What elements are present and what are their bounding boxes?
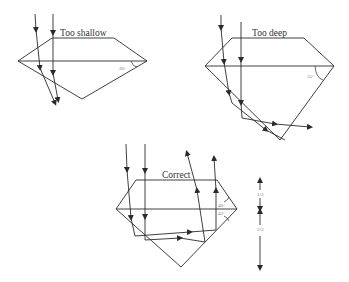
deep-outline (205, 38, 334, 140)
correct-diamond: Correct 40° 42° (116, 144, 237, 267)
proportion-markers: 1/3 2/3 (257, 180, 264, 268)
correct-angle-label-lower: 42° (218, 211, 225, 216)
shallow-title: Too shallow (60, 28, 107, 38)
shallow-ray-1-in (35, 14, 36, 30)
shallow-outline (18, 38, 147, 99)
correct-ray-1-out (214, 158, 216, 190)
correct-outline (116, 180, 237, 267)
too-deep-diamond: Too deep 55° (205, 15, 334, 140)
two-thirds-label: 2/3 (257, 227, 264, 232)
one-third-label: 1/3 (257, 192, 264, 197)
correct-title: Correct (162, 170, 191, 180)
deep-title: Too deep (252, 28, 287, 38)
correct-ray-1-in (126, 144, 127, 170)
shallow-angle-arc (131, 61, 137, 67)
correct-angle-label-upper: 40° (218, 203, 225, 208)
too-shallow-diamond: Too shallow 30° (18, 14, 147, 103)
correct-angle-arc-upper (224, 197, 229, 202)
deep-angle-label: 55° (307, 74, 314, 79)
deep-angle-arc (315, 66, 323, 80)
shallow-angle-label: 30° (119, 66, 126, 71)
diamond-cut-diagram: Too shallow 30° Too deep 55° Correct (0, 0, 349, 282)
